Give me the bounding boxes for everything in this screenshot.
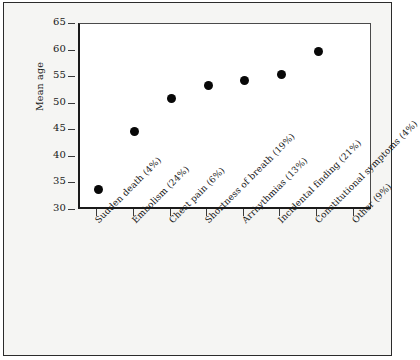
y-tick-label: 60 [53,43,66,54]
data-point [314,47,323,56]
y-tick-label: 45 [53,122,66,133]
data-point [240,76,249,85]
y-tick-mark [68,209,75,210]
y-axis-title: Mean age [34,47,45,127]
y-tick-mark [68,182,75,183]
data-point [167,94,176,103]
data-point [94,185,103,194]
y-tick-mark [68,50,75,51]
y-tick-label: 50 [53,96,66,107]
y-tick-mark [68,103,75,104]
y-tick-label: 65 [53,16,66,27]
y-tick-mark [68,23,75,24]
y-tick-mark [68,76,75,77]
figure-panel: Mean age 3035404550556065 Sudden death (… [3,2,392,356]
y-tick-label: 30 [53,202,66,213]
y-tick-label: 35 [53,175,66,186]
y-tick-mark [68,156,75,157]
data-point [277,70,286,79]
y-tick-label: 55 [53,69,66,80]
data-point [130,127,139,136]
y-tick-label: 40 [53,149,66,160]
y-tick-mark [68,129,75,130]
data-point [204,81,213,90]
